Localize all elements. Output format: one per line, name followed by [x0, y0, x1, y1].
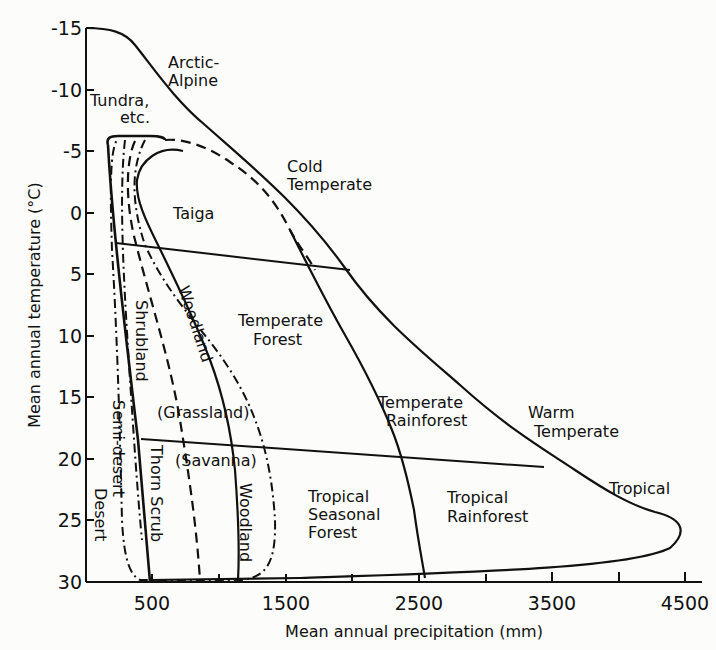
label-cold-temperate: Temperate	[286, 175, 372, 194]
region-labels: Arctic- Alpine Tundra, etc. Cold Tempera…	[89, 53, 670, 562]
label-temperate-rainforest: Temperate	[377, 393, 463, 412]
label-semi-desert: Semi-desert	[109, 400, 128, 497]
y-tick-label: -10	[51, 79, 82, 101]
label-thorn-scrub: Thorn Scrub	[147, 444, 166, 542]
x-tick-label: 500	[134, 592, 170, 614]
x-axis-title: Mean annual precipitation (mm)	[285, 622, 543, 641]
x-tick-labels: 500 1500 2500 3500 4500	[134, 592, 709, 614]
x-tick-label: 1500	[262, 592, 310, 614]
y-tick-label: 5	[70, 263, 82, 285]
axes	[86, 28, 702, 582]
x-tick-label: 4500	[661, 592, 709, 614]
label-temperate-forest: Forest	[253, 330, 302, 349]
y-tick-labels: -15 -10 -5 0 5 10 15 20 25 30	[51, 17, 82, 593]
label-woodland-temperate: Woodland	[174, 283, 217, 364]
label-savanna: (Savanna)	[175, 451, 257, 470]
y-tick-label: 20	[58, 448, 82, 470]
label-shrubland: Shrubland	[132, 300, 151, 382]
y-tick-label: -15	[51, 17, 82, 39]
label-cold-temperate: Cold	[287, 157, 323, 176]
label-desert: Desert	[91, 488, 110, 541]
y-axis-title: Mean annual temperature (°C)	[25, 182, 44, 428]
label-temperate-forest: Temperate	[237, 311, 323, 330]
y-tick-label: 10	[58, 325, 82, 347]
label-arctic-alpine: Alpine	[168, 71, 218, 90]
label-tropical-seasonal-forest: Forest	[308, 523, 357, 542]
label-taiga: Taiga	[172, 204, 214, 223]
label-tropical-rainforest: Rainforest	[447, 507, 528, 526]
biome-chart: -15 -10 -5 0 5 10 15 20 25 30 500 1500 2…	[0, 0, 716, 650]
y-tick-label: 30	[58, 571, 82, 593]
label-woodland-tropical: Woodland	[236, 483, 255, 562]
label-tropical-seasonal-forest: Tropical	[307, 487, 369, 506]
label-temperate-rainforest: Rainforest	[386, 411, 467, 430]
label-warm-temperate: Temperate	[533, 422, 619, 441]
x-tick-label: 2500	[395, 592, 443, 614]
label-warm-temperate: Warm	[528, 403, 574, 422]
y-tick-label: 15	[58, 386, 82, 408]
y-tick-label: -5	[63, 140, 82, 162]
label-tropical: Tropical	[608, 479, 670, 498]
label-tundra: etc.	[120, 108, 150, 127]
y-tick-label: 25	[58, 509, 82, 531]
label-grassland: (Grassland)	[157, 403, 249, 422]
label-tropical-rainforest: Tropical	[446, 488, 508, 507]
label-arctic-alpine: Arctic-	[168, 53, 219, 72]
label-tropical-seasonal-forest: Seasonal	[308, 505, 380, 524]
y-tick-label: 0	[70, 202, 82, 224]
x-tick-label: 3500	[528, 592, 576, 614]
outer-envelope-curve	[86, 28, 681, 580]
